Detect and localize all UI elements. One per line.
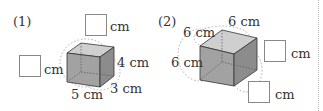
unit-label: cm	[275, 88, 295, 101]
edge-label-b: 6 cm	[228, 15, 260, 28]
answer-box-2a[interactable]	[264, 40, 286, 62]
length-label: 5 cm	[71, 88, 103, 101]
page-divider	[318, 0, 319, 111]
answer-box-1a[interactable]	[85, 14, 107, 36]
height-label: 4 cm	[117, 56, 149, 69]
answer-box-1b[interactable]	[19, 55, 41, 77]
width-label: 3 cm	[110, 82, 142, 95]
unit-label: cm	[44, 63, 64, 76]
edge-label-c: 6 cm	[171, 56, 203, 69]
problem-number-2: (2)	[158, 15, 176, 28]
unit-label: cm	[291, 47, 311, 60]
answer-box-2b[interactable]	[248, 81, 270, 103]
problem-number-1: (1)	[13, 15, 31, 28]
unit-label: cm	[110, 20, 130, 33]
edge-label-a: 6 cm	[183, 26, 215, 39]
